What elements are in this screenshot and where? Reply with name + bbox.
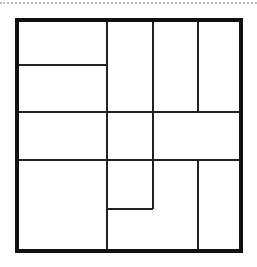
line-v-b-top: [152, 22, 154, 209]
top-dotted-separator: [0, 2, 257, 4]
line-v-c-top: [197, 22, 199, 112]
outer-frame: [15, 18, 243, 253]
line-h-mid-2: [19, 159, 239, 161]
line-h-top-left: [19, 64, 107, 66]
line-h-mid-1: [19, 111, 239, 113]
line-v-c-bottom: [197, 160, 199, 249]
line-v-a: [106, 22, 108, 249]
line-h-bottom-small: [107, 208, 153, 210]
